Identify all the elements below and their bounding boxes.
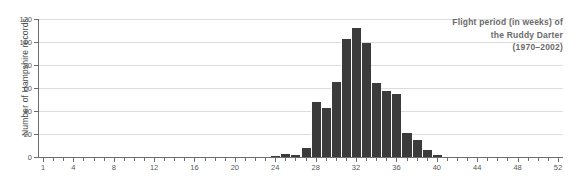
x-tick-minor <box>184 158 185 161</box>
x-tick-minor <box>63 158 64 161</box>
x-tick-minor <box>467 158 468 161</box>
y-tick: 20 <box>38 134 39 135</box>
bar <box>412 140 422 157</box>
x-tick-minor <box>346 158 347 161</box>
x-tick-minor <box>144 158 145 161</box>
x-tick-major <box>437 158 438 162</box>
gridline <box>39 88 563 89</box>
y-tick: 100 <box>38 42 39 43</box>
x-tick-minor <box>53 158 54 161</box>
x-tick-minor <box>215 158 216 161</box>
y-tick-label: 0 <box>28 153 32 162</box>
x-tick-label: 28 <box>311 163 319 172</box>
x-tick-label: 48 <box>513 163 521 172</box>
x-tick-minor <box>295 158 296 161</box>
x-tick-minor <box>225 158 226 161</box>
x-tick-major <box>73 158 74 162</box>
x-tick-minor <box>164 158 165 161</box>
x-tick-minor <box>447 158 448 161</box>
x-tick-minor <box>538 158 539 161</box>
x-tick-label: 4 <box>71 163 75 172</box>
x-tick-minor <box>94 158 95 161</box>
x-tick-major <box>154 158 155 162</box>
x-tick-minor <box>245 158 246 161</box>
x-tick-major <box>518 158 519 162</box>
x-tick-major <box>396 158 397 162</box>
y-tick-mark <box>34 111 38 112</box>
x-tick-major <box>558 158 559 162</box>
bar <box>321 108 331 157</box>
x-tick-minor <box>326 158 327 161</box>
x-tick-major <box>356 158 357 162</box>
x-tick-major <box>194 158 195 162</box>
y-tick-mark <box>34 157 38 158</box>
x-tick-minor <box>104 158 105 161</box>
x-tick-minor <box>124 158 125 161</box>
x-tick-minor <box>336 158 337 161</box>
x-tick-major <box>235 158 236 162</box>
y-tick-label: 100 <box>19 38 32 47</box>
x-tick-minor <box>487 158 488 161</box>
bar <box>361 43 371 157</box>
gridline <box>39 134 563 135</box>
x-tick-label: 36 <box>392 163 400 172</box>
y-tick-label: 20 <box>24 130 32 139</box>
x-tick-minor <box>427 158 428 161</box>
y-tick: 0 <box>38 157 39 158</box>
y-tick-label: 120 <box>19 15 32 24</box>
chart-figure: Number of Hampshire records 020406080100… <box>0 0 579 183</box>
x-tick-label: 32 <box>352 163 360 172</box>
bar <box>341 39 351 157</box>
y-tick: 80 <box>38 65 39 66</box>
chart-title-line-2: the Ruddy Darter <box>452 29 563 42</box>
x-tick-label: 16 <box>190 163 198 172</box>
x-tick-label: 12 <box>150 163 158 172</box>
y-tick-mark <box>34 42 38 43</box>
bar <box>381 91 391 157</box>
x-tick-minor <box>306 158 307 161</box>
x-tick-minor <box>376 158 377 161</box>
x-tick-minor <box>134 158 135 161</box>
x-tick-major <box>316 158 317 162</box>
x-tick-major <box>275 158 276 162</box>
gridline <box>39 111 563 112</box>
x-tick-minor <box>457 158 458 161</box>
x-tick-minor <box>507 158 508 161</box>
x-tick-minor <box>285 158 286 161</box>
x-tick-major <box>114 158 115 162</box>
x-tick-minor <box>386 158 387 161</box>
x-tick-minor <box>255 158 256 161</box>
bar <box>422 150 432 157</box>
bar <box>401 133 411 157</box>
x-tick-label: 1 <box>41 163 45 172</box>
y-tick-mark <box>34 65 38 66</box>
y-tick-mark <box>34 19 38 20</box>
bar <box>331 82 341 157</box>
x-tick-minor <box>366 158 367 161</box>
bar <box>371 83 381 157</box>
x-axis-line <box>38 157 563 158</box>
y-tick-label: 80 <box>24 61 32 70</box>
x-tick-minor <box>407 158 408 161</box>
x-tick-label: 24 <box>271 163 279 172</box>
x-tick-minor <box>497 158 498 161</box>
chart-title-line-1: Flight period (in weeks) of <box>452 16 563 29</box>
y-tick-label: 60 <box>24 84 32 93</box>
y-tick-mark <box>34 88 38 89</box>
x-tick-minor <box>205 158 206 161</box>
x-tick-label: 20 <box>231 163 239 172</box>
y-tick: 120 <box>38 19 39 20</box>
x-tick-minor <box>174 158 175 161</box>
x-tick-label: 40 <box>433 163 441 172</box>
bar <box>311 102 321 157</box>
x-tick-label: 8 <box>112 163 116 172</box>
bar <box>391 94 401 157</box>
y-tick: 40 <box>38 111 39 112</box>
x-tick-major <box>477 158 478 162</box>
y-tick-label: 40 <box>24 107 32 116</box>
gridline <box>39 65 563 66</box>
x-tick-minor <box>528 158 529 161</box>
chart-title-line-3: (1970–2002) <box>452 41 563 54</box>
x-tick-major <box>43 158 44 162</box>
x-tick-label: 44 <box>473 163 481 172</box>
